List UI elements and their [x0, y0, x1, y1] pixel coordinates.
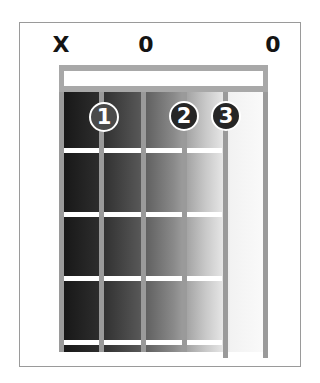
string-3 — [182, 92, 187, 352]
fretboard: 1 2 3 — [59, 65, 268, 354]
string-6 — [59, 92, 64, 352]
open-string-marker: 0 — [258, 31, 288, 59]
finger-dot-3: 3 — [211, 101, 241, 131]
string-2 — [223, 92, 228, 358]
nut-frame — [59, 65, 268, 92]
open-string-marker: 0 — [131, 31, 161, 59]
finger-dot-1: 1 — [89, 102, 119, 132]
string-4 — [141, 92, 146, 352]
fretboard-background — [59, 92, 268, 352]
string-1 — [263, 92, 268, 358]
nut — [64, 71, 263, 86]
muted-string-marker: X — [46, 31, 76, 59]
finger-dot-2: 2 — [169, 101, 199, 131]
